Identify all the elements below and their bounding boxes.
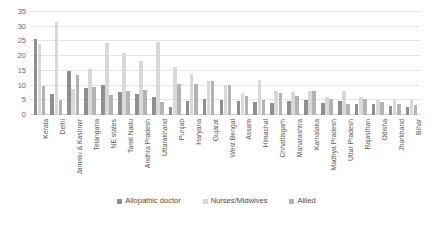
bar xyxy=(312,91,316,115)
bar xyxy=(152,97,156,115)
chart-legend: Allopathic doctorNurses/MidwivesAllied xyxy=(0,197,433,205)
bar xyxy=(342,91,346,115)
bar xyxy=(109,95,113,115)
bar xyxy=(224,85,228,115)
bar xyxy=(177,84,181,115)
x-axis-tick-label: Uttarakhand xyxy=(161,119,168,156)
bar xyxy=(92,87,96,115)
bar-group xyxy=(183,12,200,115)
bar xyxy=(139,61,143,115)
bar xyxy=(376,100,380,115)
bar xyxy=(67,71,71,115)
bar xyxy=(228,85,232,115)
bar xyxy=(321,103,325,115)
bar-group xyxy=(200,12,217,115)
bar xyxy=(410,100,414,115)
bar xyxy=(274,91,278,115)
bar-group xyxy=(403,12,420,115)
x-axis-tick-label: Maharashtra xyxy=(296,119,303,157)
y-axis-tick-label: 30 xyxy=(6,23,26,31)
frame-bottom-edge xyxy=(0,224,433,225)
bar xyxy=(126,91,130,115)
x-axis-tick-label: Telangana xyxy=(93,119,100,150)
bar xyxy=(190,74,194,115)
bar xyxy=(173,67,177,115)
bar xyxy=(105,43,109,115)
bar xyxy=(359,97,363,115)
legend-swatch-icon xyxy=(289,199,294,204)
bar-group xyxy=(319,12,336,115)
bar xyxy=(203,99,207,115)
bar xyxy=(355,104,359,115)
x-axis-tick-label: Delhi xyxy=(59,119,66,135)
bar xyxy=(220,100,224,115)
bar xyxy=(71,89,75,115)
bar-group xyxy=(352,12,369,115)
bar xyxy=(308,91,312,115)
x-axis-tick-label: Himachal xyxy=(262,119,269,147)
bar xyxy=(406,107,410,115)
x-axis-tick-label: Gujarat xyxy=(212,119,219,141)
bar xyxy=(270,103,274,115)
y-axis-tick-label: 20 xyxy=(6,52,26,60)
bar xyxy=(186,101,190,115)
bar xyxy=(156,42,160,115)
bar xyxy=(245,96,249,115)
bar xyxy=(88,69,92,115)
bar xyxy=(329,99,333,115)
bar xyxy=(325,97,329,115)
bar xyxy=(207,81,211,115)
bar xyxy=(380,102,384,115)
legend-item[interactable]: Nurses/Midwives xyxy=(203,197,268,205)
bar xyxy=(194,84,198,115)
bar xyxy=(38,44,42,115)
bar xyxy=(262,100,266,115)
y-axis: 05101520253035 xyxy=(0,0,29,125)
bar xyxy=(122,53,126,115)
bar xyxy=(258,80,262,115)
bar-group xyxy=(217,12,234,115)
x-axis-tick-label: West Bengal xyxy=(229,119,236,157)
legend-item[interactable]: Allied xyxy=(289,197,315,205)
legend-item[interactable]: Allopathic doctor xyxy=(117,197,180,205)
bar-group xyxy=(166,12,183,115)
bar-group xyxy=(48,12,65,115)
bar xyxy=(50,94,54,115)
x-axis-tick-label: Assam xyxy=(245,119,252,140)
y-axis-tick-label: 15 xyxy=(6,67,26,75)
bar xyxy=(295,96,299,115)
bar-group xyxy=(82,12,99,115)
bar xyxy=(118,92,122,115)
bar xyxy=(287,101,291,115)
bar xyxy=(414,105,418,115)
bar xyxy=(59,100,63,115)
bar-group xyxy=(132,12,149,115)
bar-group xyxy=(149,12,166,115)
bar xyxy=(372,104,376,115)
bar-group xyxy=(65,12,82,115)
bar xyxy=(34,39,38,116)
bar-group xyxy=(268,12,285,115)
bar xyxy=(279,93,283,115)
bar xyxy=(304,100,308,115)
x-axis-tick-label: Punjab xyxy=(178,119,185,140)
y-axis-tick-label: 5 xyxy=(6,96,26,104)
bar xyxy=(135,94,139,115)
x-axis-tick-label: Karnataka xyxy=(313,119,320,150)
x-axis-tick-label: Andhra Pradesh xyxy=(144,119,151,168)
x-axis-tick-label: Jharkhand xyxy=(398,119,405,151)
bar xyxy=(160,102,164,115)
bar xyxy=(101,85,105,115)
bar xyxy=(389,106,393,115)
x-axis-tick-label: Madhya Pradesh xyxy=(330,119,337,170)
legend-swatch-icon xyxy=(117,199,122,204)
x-axis-tick-label: Chhattisgarh xyxy=(279,119,286,158)
bar-group xyxy=(31,12,48,115)
bar xyxy=(346,104,350,115)
legend-label: Allied xyxy=(297,197,315,205)
y-axis-tick-label: 35 xyxy=(6,8,26,16)
grouped-bar-chart: 05101520253035 KeralaDelhiJammu & Kashmi… xyxy=(0,0,433,225)
x-axis-tick-label: NE states xyxy=(110,119,117,148)
bar-group xyxy=(99,12,116,115)
bar-group xyxy=(386,12,403,115)
